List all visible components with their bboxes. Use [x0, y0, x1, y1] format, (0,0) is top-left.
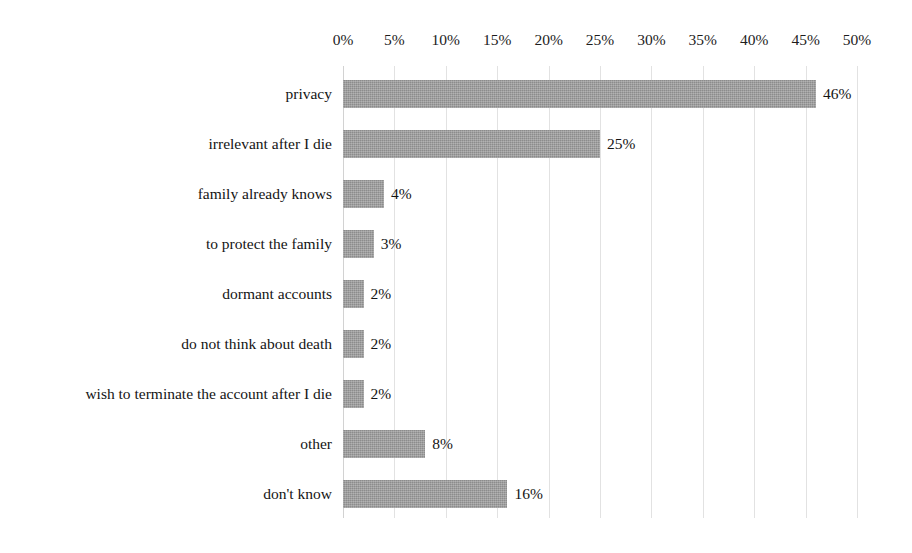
category-label: dormant accounts: [222, 280, 332, 308]
bar: [343, 430, 425, 458]
x-tick-label: 25%: [586, 30, 614, 50]
bar-value-label: 46%: [823, 80, 851, 108]
bar-container: [343, 330, 364, 358]
bar-row: do not think about death2%: [0, 330, 912, 380]
category-label: irrelevant after I die: [209, 130, 333, 158]
bar: [343, 80, 816, 108]
x-tick-label: 15%: [483, 30, 511, 50]
bar-row: irrelevant after I die25%: [0, 130, 912, 180]
bar-container: [343, 280, 364, 308]
bar-value-label: 4%: [391, 180, 412, 208]
category-label: wish to terminate the account after I di…: [85, 380, 332, 408]
bar: [343, 330, 364, 358]
x-tick-label: 0%: [333, 30, 354, 50]
bar: [343, 280, 364, 308]
category-label: other: [300, 430, 332, 458]
category-label: don't know: [263, 480, 332, 508]
bar-container: [343, 430, 425, 458]
bar: [343, 380, 364, 408]
bar: [343, 130, 600, 158]
bar: [343, 180, 384, 208]
bar-value-label: 3%: [381, 230, 402, 258]
x-tick-label: 40%: [740, 30, 768, 50]
bar-container: [343, 230, 374, 258]
x-tick-label: 45%: [791, 30, 819, 50]
bar-value-label: 2%: [371, 380, 392, 408]
bar-container: [343, 80, 816, 108]
x-tick-label: 10%: [432, 30, 460, 50]
bar-value-label: 16%: [514, 480, 542, 508]
category-label: privacy: [286, 80, 332, 108]
bar: [343, 230, 374, 258]
x-tick-label: 30%: [637, 30, 665, 50]
bar-row: other8%: [0, 430, 912, 480]
bar-row: dormant accounts2%: [0, 280, 912, 330]
bar-row: family already knows4%: [0, 180, 912, 230]
category-label: do not think about death: [181, 330, 332, 358]
bar-value-label: 8%: [432, 430, 453, 458]
x-tick-label: 5%: [384, 30, 405, 50]
bar-value-label: 2%: [371, 280, 392, 308]
category-label: to protect the family: [206, 230, 332, 258]
bar-chart: 0%5%10%15%20%25%30%35%40%45%50% privacy4…: [0, 0, 912, 553]
bar-row: don't know16%: [0, 480, 912, 530]
bar-container: [343, 180, 384, 208]
x-tick-label: 20%: [534, 30, 562, 50]
bar-value-label: 2%: [371, 330, 392, 358]
x-axis-tick-labels: 0%5%10%15%20%25%30%35%40%45%50%: [0, 30, 912, 52]
bar-row: wish to terminate the account after I di…: [0, 380, 912, 430]
category-label: family already knows: [198, 180, 332, 208]
bar-container: [343, 130, 600, 158]
bar-container: [343, 480, 507, 508]
bar-row: to protect the family3%: [0, 230, 912, 280]
bar: [343, 480, 507, 508]
bar-row: privacy46%: [0, 80, 912, 130]
bar-container: [343, 380, 364, 408]
bar-value-label: 25%: [607, 130, 635, 158]
x-tick-label: 50%: [843, 30, 871, 50]
x-tick-label: 35%: [689, 30, 717, 50]
